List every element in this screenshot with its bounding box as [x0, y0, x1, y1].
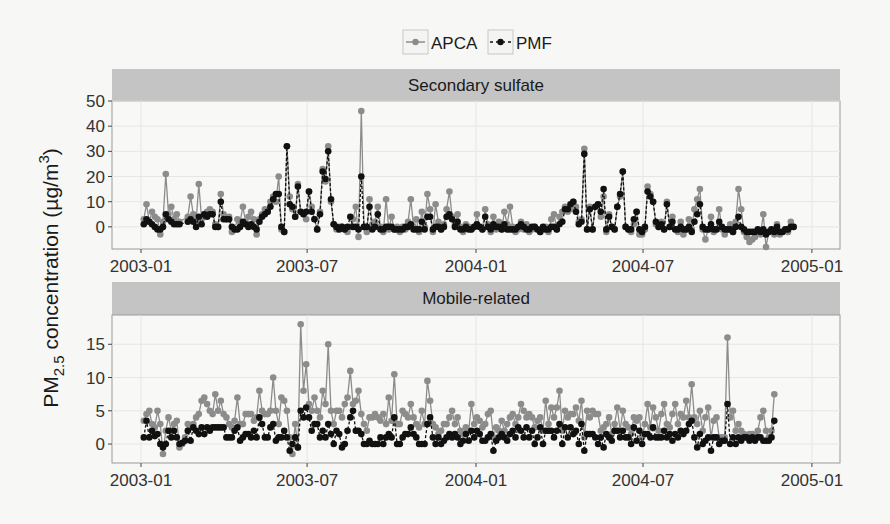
strip-label-secondary-sulfate: Secondary sulfate — [408, 76, 544, 95]
y-axis-title: PM2.5 concentration (µg/m3) — [35, 148, 67, 408]
legend: APCA PMF — [403, 30, 552, 54]
legend-apca-marker-icon — [412, 39, 418, 45]
x-tick-label: 2003-01 — [110, 471, 172, 490]
panel-mobile-related: 0510152003-012003-072004-012004-072005-0… — [86, 282, 843, 490]
y-tick-label: 50 — [86, 92, 105, 111]
legend-label-apca: APCA — [431, 34, 478, 53]
y-tick-label: 15 — [86, 335, 105, 354]
x-tick-label: 2003-07 — [276, 471, 338, 490]
strip-label-mobile-related: Mobile-related — [422, 289, 530, 308]
legend-pmf-marker-icon — [497, 39, 503, 45]
y-tick-label: 10 — [86, 369, 105, 388]
pm25-timeseries-chart: APCA PMF PM2.5 concentration (µg/m3) 010… — [0, 0, 890, 524]
y-tick-label: 5 — [96, 402, 105, 421]
x-tick-label: 2003-01 — [110, 257, 172, 276]
y-tick-label: 10 — [86, 193, 105, 212]
x-tick-label: 2004-07 — [612, 471, 674, 490]
y-tick-label: 20 — [86, 168, 105, 187]
y-tick-label: 40 — [86, 117, 105, 136]
y-tick-label: 0 — [96, 218, 105, 237]
panel-secondary-sulfate: 010203040502003-012003-072004-012004-072… — [86, 69, 843, 276]
x-tick-label: 2004-01 — [445, 257, 507, 276]
x-tick-label: 2003-07 — [276, 257, 338, 276]
x-tick-label: 2005-01 — [781, 471, 843, 490]
x-tick-label: 2004-01 — [445, 471, 507, 490]
x-tick-label: 2004-07 — [612, 257, 674, 276]
x-tick-label: 2005-01 — [781, 257, 843, 276]
y-tick-label: 30 — [86, 142, 105, 161]
legend-label-pmf: PMF — [516, 34, 552, 53]
y-tick-label: 0 — [96, 435, 105, 454]
